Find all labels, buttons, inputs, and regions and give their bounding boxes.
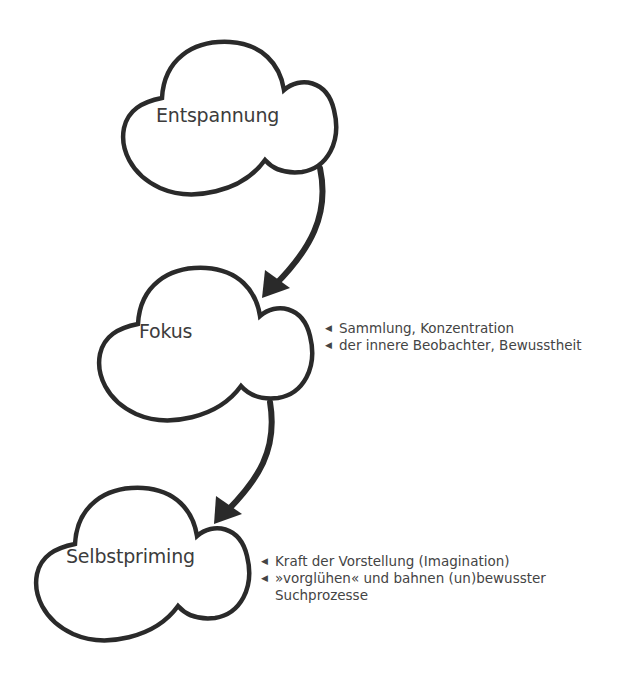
- left-triangle-icon: ◀: [325, 320, 332, 337]
- left-triangle-icon: ◀: [261, 570, 268, 587]
- annotation-text: Kraft der Vorstellung (Imagination): [275, 553, 510, 569]
- arrow-fokus-to-selbstpriming: [214, 402, 272, 524]
- annotation-item: ◀ der innere Beobachter, Bewusstheit: [325, 337, 582, 354]
- annotation-fokus: ◀ Sammlung, Konzentration ◀ der innere B…: [325, 320, 582, 354]
- node-label-selbstpriming: Selbstpriming: [66, 545, 195, 567]
- annotation-text: der innere Beobachter, Bewusstheit: [339, 337, 582, 353]
- annotation-item: ◀ Kraft der Vorstellung (Imagination): [261, 553, 546, 570]
- annotation-text: Suchprozesse: [275, 587, 368, 603]
- node-label-fokus: Fokus: [139, 320, 192, 342]
- annotation-item: ◀ »vorglühen« und bahnen (un)bewusster: [261, 570, 546, 587]
- arrow-entspannung-to-fokus: [262, 168, 323, 298]
- annotation-continuation: Suchprozesse: [261, 587, 546, 604]
- annotation-selbstpriming: ◀ Kraft der Vorstellung (Imagination) ◀ …: [261, 553, 546, 604]
- node-label-entspannung: Entspannung: [156, 104, 279, 126]
- left-triangle-icon: ◀: [325, 337, 332, 354]
- annotation-item: ◀ Sammlung, Konzentration: [325, 320, 582, 337]
- annotation-text: Sammlung, Konzentration: [339, 320, 514, 336]
- left-triangle-icon: ◀: [261, 553, 268, 570]
- annotation-text: »vorglühen« und bahnen (un)bewusster: [275, 570, 546, 586]
